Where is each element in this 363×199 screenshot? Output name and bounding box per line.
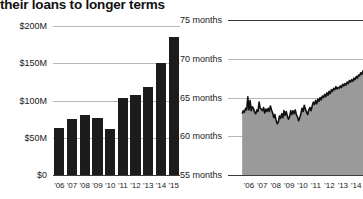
bar-y-tick-label: $100M <box>0 97 47 106</box>
bar <box>80 115 90 175</box>
bar <box>54 128 64 175</box>
loans-bar-chart: $0$50M$100M$150M$200M '06'07'08'09'10'11… <box>0 0 180 199</box>
infographic-root: their loans to longer terms $0$50M$100M$… <box>0 0 363 199</box>
line-chart-svg <box>228 20 363 175</box>
bar <box>143 87 153 175</box>
line-y-tick-label: 70 months <box>178 55 222 64</box>
line-y-tick-label: 65 months <box>178 94 222 103</box>
line-gridline <box>228 175 363 176</box>
bar <box>105 129 115 175</box>
bar <box>67 119 77 175</box>
bar <box>130 95 140 175</box>
bar <box>156 63 166 175</box>
line-chart-plot <box>228 20 363 175</box>
bar-y-tick-label: $200M <box>0 22 47 31</box>
bar-y-tick-label: $50M <box>0 134 47 143</box>
line-y-tick-label: 60 months <box>178 132 222 141</box>
line-y-tick-label: 75 months <box>178 16 222 25</box>
line-x-tick-label: '14 <box>347 181 363 190</box>
bar <box>92 118 102 175</box>
bar <box>118 98 128 175</box>
bar-y-tick-label: $150M <box>0 59 47 68</box>
bar-gridline <box>53 175 180 176</box>
bar-chart-plot <box>53 26 180 175</box>
bar-y-tick-label: $0 <box>0 171 47 180</box>
area-fill <box>242 70 363 175</box>
line-y-tick-label: 55 months <box>178 171 222 180</box>
loan-term-line-chart: 55 months60 months65 months70 months75 m… <box>180 0 363 199</box>
